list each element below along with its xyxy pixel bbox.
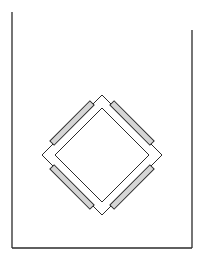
diagram-canvas	[0, 0, 205, 258]
diamond-frame	[42, 95, 162, 215]
diamond-frame-diagram	[0, 0, 205, 258]
